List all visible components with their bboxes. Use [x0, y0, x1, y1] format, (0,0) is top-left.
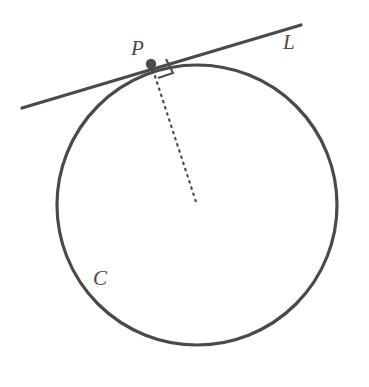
tangent-point-p-dot — [146, 59, 156, 69]
line-l-label: L — [283, 32, 295, 53]
circle-c-label: C — [93, 268, 107, 289]
point-p-label: P — [131, 38, 144, 59]
radius-segment-shape — [153, 70, 197, 205]
geometry-diagram: P L C — [0, 0, 369, 387]
geometry-canvas — [0, 0, 369, 387]
